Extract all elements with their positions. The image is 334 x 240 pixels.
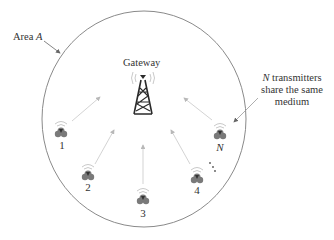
diagram-canvas xyxy=(0,0,334,240)
transmitter-4-icon xyxy=(191,168,203,184)
ellipsis-dots xyxy=(209,162,216,172)
arrow-tx1 xyxy=(72,97,100,121)
transmitter-3-icon xyxy=(137,189,149,205)
note-line3: medium xyxy=(252,96,332,108)
arrow-tx2 xyxy=(95,130,114,164)
arrow-txN xyxy=(184,98,212,120)
transmitter-3-label: 3 xyxy=(136,207,150,219)
gateway-label: Gateway xyxy=(123,57,160,69)
transmitter-N-icon xyxy=(214,124,226,140)
gateway-tower-icon xyxy=(132,72,155,114)
area-label-var: A xyxy=(36,31,42,42)
note-line2: share the same xyxy=(252,84,332,96)
transmitter-2-label: 2 xyxy=(81,181,95,193)
transmitter-2-icon xyxy=(82,165,94,181)
transmitter-4-label: 4 xyxy=(190,184,204,196)
note-label: N transmitters share the same medium xyxy=(252,72,332,108)
area-boundary xyxy=(42,11,246,227)
area-label: Area A xyxy=(13,31,42,43)
transmitter-N-label: N xyxy=(213,141,227,153)
area-label-text: Area xyxy=(13,31,36,42)
transmitter-1-icon xyxy=(55,122,67,138)
note-line1: transmitters xyxy=(269,72,321,83)
area-pointer-arrow xyxy=(44,41,60,53)
arrow-tx4 xyxy=(171,130,190,164)
transmitter-1-label: 1 xyxy=(55,139,69,151)
